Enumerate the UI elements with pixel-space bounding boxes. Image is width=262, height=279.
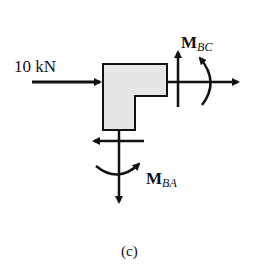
moment-ba-subscript: BA (162, 176, 177, 190)
applied-force-label: 10 kN (14, 57, 56, 77)
moment-ba-symbol: M (146, 169, 162, 188)
free-body-diagram (0, 0, 262, 279)
joint-body (103, 64, 167, 130)
moment-bc-subscript: BC (197, 40, 212, 54)
moment-bc-symbol: M (181, 33, 197, 52)
moment-ba-label: MBA (146, 169, 177, 191)
moment-bc-label: MBC (181, 33, 212, 55)
moment-ba-arrow (96, 164, 139, 175)
figure-caption: (c) (121, 243, 138, 260)
